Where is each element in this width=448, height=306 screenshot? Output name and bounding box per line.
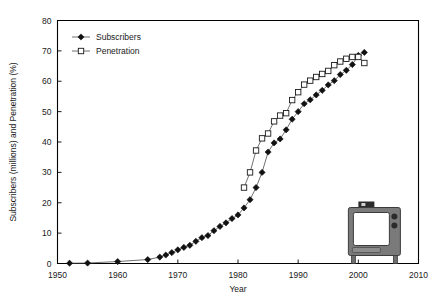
y-tick-label: 10 (42, 228, 52, 238)
data-point-marker (66, 260, 72, 266)
data-point-marker (271, 140, 277, 146)
legend-label: Subscribers (96, 32, 141, 42)
data-point-marker (283, 110, 288, 115)
data-point-marker (259, 136, 264, 141)
data-point-marker (217, 223, 223, 229)
data-point-marker (247, 197, 253, 203)
data-point-marker (332, 62, 337, 67)
data-point-marker (175, 247, 181, 253)
data-point-marker (344, 56, 349, 61)
chart-legend: SubscribersPenetration (72, 32, 141, 56)
data-point-marker (193, 238, 199, 244)
data-point-marker (295, 89, 300, 94)
data-point-marker (253, 148, 258, 153)
data-point-marker (301, 101, 307, 107)
chart-figure: 0102030405060708019501960197019801990200… (0, 0, 448, 306)
data-point-marker (199, 235, 205, 241)
x-tick-label: 2000 (349, 270, 368, 280)
data-point-marker (163, 252, 169, 258)
data-point-marker (289, 97, 294, 102)
x-tick-label: 1990 (289, 270, 308, 280)
data-point-marker (84, 260, 90, 266)
data-point-marker (271, 119, 276, 124)
legend-marker (78, 34, 84, 40)
data-point-marker (241, 185, 246, 190)
data-point-marker (259, 169, 265, 175)
data-point-marker (157, 254, 163, 260)
x-tick-label: 1960 (108, 270, 127, 280)
data-point-marker (283, 127, 289, 133)
y-axis: 01020304050607080 (42, 16, 61, 269)
line-chart-canvas: 0102030405060708019501960197019801990200… (0, 0, 448, 306)
series-penetration (241, 54, 367, 190)
television-set-icon (348, 202, 400, 264)
y-tick-label: 70 (42, 46, 52, 56)
data-point-marker (181, 244, 187, 250)
data-point-marker (169, 249, 175, 255)
x-tick-label: 1950 (48, 270, 67, 280)
y-tick-label: 30 (42, 167, 52, 177)
y-tick-label: 60 (42, 76, 52, 86)
y-tick-label: 80 (42, 16, 52, 26)
y-axis-title: Subscribers (millions) and Penetration (… (8, 62, 18, 221)
data-point-marker (320, 71, 325, 76)
legend-label: Penetration (96, 46, 140, 56)
y-tick-label: 40 (42, 137, 52, 147)
x-tick-label: 2010 (409, 270, 428, 280)
data-point-marker (308, 78, 313, 83)
data-point-marker (265, 149, 271, 155)
data-point-marker (277, 113, 282, 118)
data-point-marker (356, 54, 361, 59)
series-polyline (70, 52, 365, 263)
data-point-marker (338, 59, 343, 64)
data-point-marker (247, 170, 252, 175)
data-point-marker (361, 49, 367, 55)
y-tick-label: 50 (42, 107, 52, 117)
data-point-marker (350, 54, 355, 59)
series-polyline (244, 57, 364, 188)
data-point-marker (301, 82, 306, 87)
x-tick-label: 1970 (168, 270, 187, 280)
y-tick-label: 20 (42, 198, 52, 208)
x-axis-title: Year (229, 284, 246, 294)
data-point-marker (314, 74, 319, 79)
data-point-marker (223, 220, 229, 226)
x-tick-label: 1980 (229, 270, 248, 280)
data-point-marker (326, 68, 331, 73)
data-point-marker (253, 184, 259, 190)
series-subscribers (66, 49, 367, 266)
legend-marker (78, 48, 83, 53)
data-point-marker (145, 256, 151, 262)
data-point-marker (362, 60, 367, 65)
data-point-marker (277, 136, 283, 142)
y-tick-label: 0 (47, 259, 52, 269)
data-point-marker (265, 131, 270, 136)
data-point-marker (187, 242, 193, 248)
data-point-marker (229, 215, 235, 221)
